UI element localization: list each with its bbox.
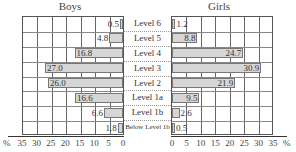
boys-value-label: 0.5 (108, 19, 119, 29)
grid-line-vertical (259, 17, 260, 134)
level-label: Level 1b (124, 105, 171, 120)
level-label: Below Level 1b (124, 120, 171, 135)
boys-title: Boys (40, 0, 100, 12)
x-tick-label: 15 (73, 138, 87, 148)
girls-bar (172, 19, 175, 29)
boys-bar (109, 33, 123, 43)
x-tick-label: 10 (194, 138, 208, 148)
x-tick-label: 25 (237, 138, 251, 148)
x-tick-label: 25 (44, 138, 58, 148)
x-tick-label: 5 (179, 138, 193, 148)
x-tick-label: 35 (15, 138, 29, 148)
girls-value-label: 30.9 (243, 63, 259, 73)
boys-value-label: 6.6 (92, 108, 103, 118)
girls-value-label: 24.7 (226, 48, 242, 58)
girls-value-label: 2.6 (181, 108, 192, 118)
girls-value-label: 9.5 (186, 93, 197, 103)
x-tick-label: 35 (266, 138, 280, 148)
boys-bar (104, 108, 123, 118)
grid-line-vertical (230, 17, 231, 134)
level-label: Level 4 (124, 46, 171, 61)
level-label: Level 3 (124, 61, 171, 76)
boys-bar (118, 123, 123, 133)
x-tick-label: 10 (87, 138, 101, 148)
girls-value-label: 21.9 (217, 78, 233, 88)
boys-x-axis (8, 136, 124, 137)
boys-value-label: 26.0 (50, 78, 66, 88)
girls-title: Girls (189, 0, 249, 12)
girls-value-label: 0.5 (176, 123, 187, 133)
grid-line-vertical (201, 17, 202, 134)
boys-bar (120, 19, 123, 29)
level-label: Level 5 (124, 31, 171, 46)
girls-bar (172, 108, 180, 118)
girls-value-label: 1.2 (176, 19, 187, 29)
x-tick-label: 20 (223, 138, 237, 148)
girls-bar (172, 123, 175, 133)
grid-line-vertical (244, 17, 245, 134)
x-tick-label: 0 (116, 138, 130, 148)
grid-line-vertical (37, 17, 38, 134)
grid-line-vertical (215, 17, 216, 134)
level-label: Level 2 (124, 76, 171, 91)
grid-line-vertical (81, 17, 82, 134)
x-tick-label: 30 (29, 138, 43, 148)
boys-value-label: 16.8 (77, 48, 93, 58)
girls-value-label: 8.8 (184, 33, 195, 43)
x-tick-label: 30 (252, 138, 266, 148)
x-tick-label: 15 (208, 138, 222, 148)
x-tick-label: 0 (165, 138, 179, 148)
grid-line-vertical (66, 17, 67, 134)
x-tick-label: 5 (102, 138, 116, 148)
pct-label-right: % (283, 138, 291, 148)
girls-x-axis (171, 136, 287, 137)
level-label: Level 6 (124, 16, 171, 31)
boys-value-label: 1.8 (106, 123, 117, 133)
level-label: Level 1a (124, 90, 171, 105)
grid-line-vertical (52, 17, 53, 134)
boys-value-label: 27.0 (47, 63, 63, 73)
boys-value-label: 16.6 (77, 93, 93, 103)
pct-label-left: % (3, 138, 11, 148)
boys-value-label: 4.8 (97, 33, 108, 43)
x-tick-label: 20 (58, 138, 72, 148)
